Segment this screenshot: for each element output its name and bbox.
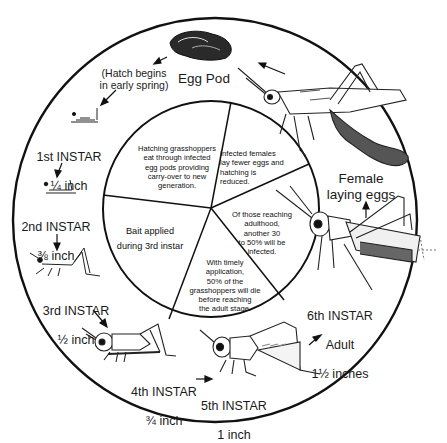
stage-size: 1½ inches <box>302 367 378 381</box>
stage-size: ⅜ inch <box>20 249 92 263</box>
stage-name: 2nd INSTAR <box>20 220 92 234</box>
stage-5th-instar: 5th INSTAR 1 inch <box>198 385 270 443</box>
pie-segment-die-before-adult: With timely application, 50% of the gras… <box>183 258 267 314</box>
stage-size: ½ inch <box>40 333 112 347</box>
stage-4th-instar: 4th INSTAR ¾ inch <box>128 371 200 443</box>
egg-pod-label: Egg Pod <box>174 71 234 87</box>
stage-1st-instar: 1st INSTAR ¼ inch <box>34 136 104 208</box>
stage-2nd-instar: 2nd INSTAR ⅜ inch <box>20 206 92 278</box>
pie-segment-fewer-eggs: Infected females lay fewer eggs and hatc… <box>220 149 296 186</box>
stage-size: 1 inch <box>198 428 270 442</box>
stage-name: 6th INSTAR <box>302 309 378 323</box>
pie-segment-adult-infected: Of those reaching adulthood, another 30 … <box>222 210 302 256</box>
stage-name: 4th INSTAR <box>128 385 200 399</box>
egg-pod-icon <box>170 31 231 60</box>
stage-6th-instar-adult: 6th INSTAR Adult 1½ inches <box>302 295 378 396</box>
stage-size: ¼ inch <box>34 179 104 193</box>
stage-sub: Adult <box>302 338 378 352</box>
pie-segment-carry-over: Hatching grasshoppers eat through infect… <box>132 144 222 190</box>
stage-name: 3rd INSTAR <box>40 304 112 318</box>
nymph-1st-instar-icon <box>71 108 98 122</box>
female-laying-eggs-label: Female laying eggs <box>326 171 396 202</box>
pie-segment-bait-applied: Bait applied during 3rd instar <box>110 224 190 253</box>
stage-3rd-instar: 3rd INSTAR ½ inch <box>40 290 112 362</box>
stage-size: ¾ inch <box>128 414 200 428</box>
stage-name: 1st INSTAR <box>34 150 104 164</box>
hatch-note: (Hatch begins in early spring) <box>94 67 174 91</box>
stage-name: 5th INSTAR <box>198 399 270 413</box>
